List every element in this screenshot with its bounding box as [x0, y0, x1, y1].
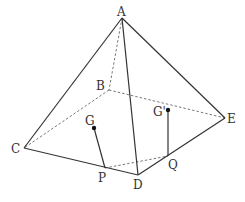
edge-CD [24, 148, 138, 175]
label-B: B [96, 79, 105, 93]
label-A: A [116, 5, 126, 19]
edge-DE [138, 118, 225, 175]
label-Q: Q [168, 158, 178, 172]
edge-AC [24, 18, 122, 148]
edge-BE [109, 90, 225, 118]
label-G: G [85, 114, 95, 128]
edge-BC [24, 90, 109, 148]
label-E: E [227, 112, 236, 126]
point-Gp [166, 108, 170, 112]
label-Gp: G' [153, 105, 166, 119]
edge-AB [109, 18, 122, 90]
segment-GP [94, 128, 105, 168]
label-D: D [133, 178, 143, 192]
edge-AE [122, 18, 225, 118]
label-P: P [98, 171, 106, 185]
label-C: C [11, 142, 20, 156]
pyramid-diagram: A B C D E G G' P Q [0, 0, 245, 202]
